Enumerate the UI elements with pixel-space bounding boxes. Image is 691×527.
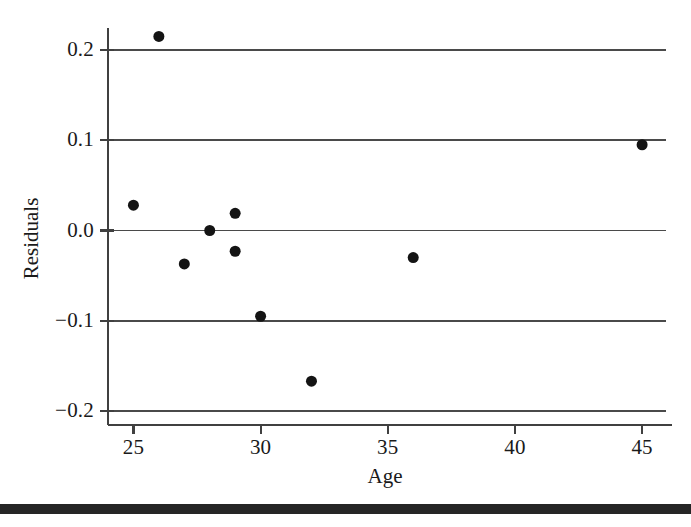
axis-group [108, 28, 672, 425]
gridline-group [108, 50, 666, 411]
y-tick-label: −0.1 [36, 310, 94, 331]
bottom-decorative-bar [0, 504, 691, 514]
y-axis-title-holder: Residuals [11, 180, 51, 300]
y-axis-title: Residuals [21, 169, 42, 309]
data-point [637, 139, 648, 150]
data-point [153, 31, 164, 42]
tick-mark-group [100, 50, 642, 434]
x-tick-label: 35 [358, 437, 418, 458]
data-point [230, 208, 241, 219]
y-tick-label: 0.1 [36, 129, 94, 150]
data-point [230, 246, 241, 257]
data-point [128, 200, 139, 211]
x-tick-label: 30 [231, 437, 291, 458]
scatter-plot-canvas [0, 0, 691, 495]
data-point [204, 225, 215, 236]
plot-area: 0.20.10.0−0.1−0.2 2530354045 Residuals A… [0, 0, 691, 495]
data-point [408, 252, 419, 263]
data-point [306, 376, 317, 387]
y-tick-label: −0.2 [36, 400, 94, 421]
x-axis-title: Age [335, 466, 435, 487]
x-tick-label: 25 [103, 437, 163, 458]
residual-plot-figure: 0.20.10.0−0.1−0.2 2530354045 Residuals A… [0, 0, 691, 527]
y-tick-label: 0.2 [36, 39, 94, 60]
data-point-group [128, 31, 648, 387]
x-tick-label: 45 [612, 437, 672, 458]
data-point [179, 258, 190, 269]
data-point [255, 311, 266, 322]
x-tick-label: 40 [485, 437, 545, 458]
